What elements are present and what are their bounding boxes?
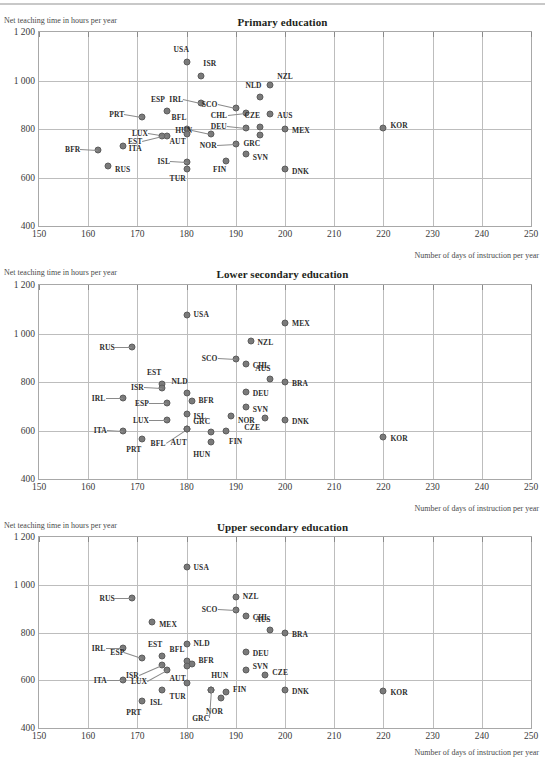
data-point [282, 319, 289, 326]
x-axis-tick-mark [88, 32, 89, 37]
data-point-label: RUS [99, 343, 114, 352]
data-point-label: ITA [94, 676, 107, 685]
data-point-label: AUS [255, 615, 270, 624]
data-point [183, 59, 190, 66]
data-point-label: GRC [243, 139, 260, 148]
data-point-label: BFR [65, 145, 80, 154]
gridline-vertical [334, 537, 335, 728]
data-point-label: NLD [172, 377, 188, 386]
data-point [222, 428, 229, 435]
x-axis-tick-mark [383, 32, 384, 37]
data-point [183, 425, 190, 432]
x-axis-tick-mark [383, 537, 384, 542]
data-point-label: GRC [192, 714, 209, 723]
data-point-label: BRA [292, 379, 308, 388]
y-axis-tick-label: 1 000 [14, 76, 35, 86]
data-point [262, 672, 269, 679]
x-axis-tick-label: 190 [229, 229, 243, 239]
data-point-label: NOR [200, 141, 217, 150]
data-point [242, 151, 249, 158]
x-axis-tick-mark [137, 32, 138, 37]
x-axis-tick-mark [285, 32, 286, 37]
x-axis-tick-label: 230 [425, 731, 439, 741]
data-point-label: ITA [94, 426, 107, 435]
data-point-label: MEX [159, 620, 177, 629]
data-point-label: CHL [211, 111, 228, 120]
data-point-label: BFL [170, 645, 185, 654]
data-point-label: AUT [170, 137, 186, 146]
x-axis-tick-label: 240 [475, 482, 489, 492]
data-point-label: NZL [277, 72, 293, 81]
x-axis-tick-label: 230 [425, 482, 439, 492]
data-point-label: RUS [99, 594, 114, 603]
x-axis-tick-mark [39, 537, 40, 542]
x-axis-tick-mark [285, 537, 286, 542]
x-axis-tick-mark [482, 537, 483, 542]
data-point-label: USA [194, 310, 209, 319]
data-point [267, 81, 274, 88]
data-point-label: SVN [253, 662, 268, 671]
data-point-label: SVN [253, 153, 268, 162]
label-leader-line [114, 347, 132, 348]
gridline-vertical [433, 537, 434, 728]
x-axis-tick-mark [482, 285, 483, 290]
x-axis-tick-label: 180 [179, 482, 193, 492]
data-point-label: SVN [253, 405, 268, 414]
chart-panel-primary: Net teaching time in hours per year Prim… [0, 8, 545, 260]
data-point [380, 687, 387, 694]
data-point-label: AUS [277, 111, 292, 120]
y-axis-tick-label: 800 [21, 124, 35, 134]
data-point [104, 162, 111, 169]
data-point [163, 107, 170, 114]
x-axis-tick-label: 230 [425, 229, 439, 239]
x-axis-tick-label: 210 [327, 229, 341, 239]
data-point [183, 389, 190, 396]
data-point [257, 132, 264, 139]
y-axis-tick-label: 600 [21, 675, 35, 685]
x-axis-tick-label: 170 [130, 482, 144, 492]
label-leader-line [149, 420, 167, 421]
data-point-label: FIN [213, 165, 226, 174]
x-axis-tick-label: 160 [81, 229, 95, 239]
gridline-vertical [334, 285, 335, 479]
data-point [149, 618, 156, 625]
x-axis-tick-mark [137, 537, 138, 542]
chart-panel-lower-secondary: Net teaching time in hours per year Lowe… [0, 260, 545, 513]
data-point-label: DNK [292, 167, 309, 176]
data-point [267, 111, 274, 118]
label-leader-line [80, 149, 98, 151]
gridline-vertical [236, 285, 237, 479]
x-axis-tick-label: 180 [179, 731, 193, 741]
x-axis-tick-label: 150 [32, 731, 46, 741]
x-axis-tick-label: 150 [32, 482, 46, 492]
data-point-label: NZL [243, 592, 259, 601]
data-point [232, 594, 239, 601]
y-axis-tick-label: 1 200 [14, 27, 35, 37]
data-point-label: FIN [233, 685, 246, 694]
gridline-vertical [236, 32, 237, 226]
label-leader-line [149, 403, 167, 404]
y-axis-tick-label: 600 [21, 173, 35, 183]
y-axis-tick-label: 1 000 [14, 580, 35, 590]
data-point-label: DEU [253, 389, 269, 398]
data-point-label: ESP [151, 95, 165, 104]
data-point [380, 124, 387, 131]
label-leader-line [107, 680, 123, 681]
x-axis-tick-mark [334, 285, 335, 290]
data-point [262, 415, 269, 422]
data-point-label: CZE [272, 668, 288, 677]
data-point-label: PRT [126, 708, 141, 717]
gridline-vertical [88, 537, 89, 728]
data-point [282, 629, 289, 636]
x-axis-tick-mark [531, 32, 532, 37]
data-point-label: DNK [292, 417, 309, 426]
x-axis-tick-label: 220 [376, 229, 390, 239]
data-point-label: SCO [202, 100, 218, 109]
y-axis-tick-label: 1 200 [14, 280, 35, 290]
gridline-vertical [236, 537, 237, 728]
data-point [282, 126, 289, 133]
data-point-label: PRT [109, 110, 124, 119]
data-point-label: RUS [115, 165, 130, 174]
x-axis-tick-label: 160 [81, 482, 95, 492]
x-axis-tick-mark [88, 285, 89, 290]
